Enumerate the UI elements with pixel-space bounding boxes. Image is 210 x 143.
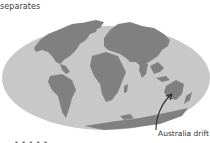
cut-off-bottom-text: • • • • • — [14, 139, 48, 143]
world-map — [0, 0, 210, 143]
label-australia-drift: Australia drift — [158, 129, 209, 138]
